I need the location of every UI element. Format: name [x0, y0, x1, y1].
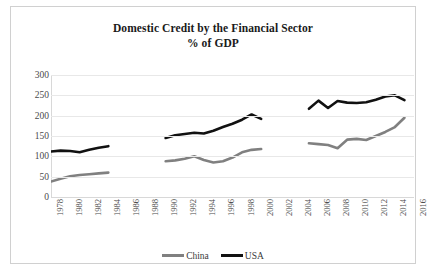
y-axis-tick-label: 300: [15, 70, 49, 80]
y-axis-tick-label: 250: [15, 90, 49, 100]
x-axis-tick-label: 2012: [379, 199, 389, 216]
x-axis-tick-label: 2004: [303, 199, 313, 216]
series-line-usa: [309, 95, 405, 108]
legend-item-usa[interactable]: USA: [221, 250, 264, 261]
gridline: [51, 116, 414, 117]
x-axis-tick-label: 1992: [188, 199, 198, 216]
y-axis-tick-label: 200: [15, 111, 49, 121]
chart-frame: Domestic Credit by the Financial Sector …: [10, 6, 416, 264]
gridline: [51, 197, 414, 198]
x-axis-tick-label: 1984: [112, 199, 122, 216]
gridline: [51, 156, 414, 157]
x-axis-tick-label: 1980: [74, 199, 84, 216]
x-axis-tick-label: 1988: [150, 199, 160, 216]
legend-label: China: [186, 251, 209, 261]
y-axis-labels: 300250200150100500: [11, 7, 49, 273]
legend-item-china[interactable]: China: [162, 250, 209, 261]
x-axis-tick-label: 1996: [226, 199, 236, 216]
y-axis-tick-label: 100: [15, 151, 49, 161]
y-axis-tick-label: 0: [15, 192, 49, 202]
chart-legend: ChinaUSA: [11, 250, 415, 261]
x-axis-tick-label: 2008: [341, 199, 351, 216]
x-axis-tick-label: 1994: [207, 199, 217, 216]
x-axis-tick-label: 2010: [360, 199, 370, 216]
y-axis-tick-label: 50: [15, 172, 49, 182]
x-axis-tick-label: 2006: [322, 199, 332, 216]
chart-subtitle: % of GDP: [11, 36, 415, 51]
gridline: [51, 136, 414, 137]
chart-title-line1: Domestic Credit by the Financial Sector: [113, 22, 313, 34]
series-line-china: [309, 118, 405, 149]
y-axis-tick-label: 150: [15, 131, 49, 141]
plot-area: [51, 75, 414, 197]
x-axis-tick-label: 2002: [284, 199, 294, 216]
x-axis-tick-label: 1978: [55, 199, 65, 216]
series-line-usa: [166, 114, 262, 138]
x-axis-tick-label: 1986: [131, 199, 141, 216]
gridline: [51, 95, 414, 96]
gridline: [51, 75, 414, 76]
series-line-usa: [51, 146, 108, 152]
x-axis-tick-label: 2014: [398, 199, 408, 216]
gridline: [51, 177, 414, 178]
legend-label: USA: [245, 251, 264, 261]
chart-title: Domestic Credit by the Financial Sector …: [11, 21, 415, 51]
x-axis-tick-label: 2016: [418, 199, 427, 216]
x-axis-labels: 1978198019821984198619881990199219941996…: [51, 199, 414, 247]
x-axis-tick-label: 2000: [265, 199, 275, 216]
legend-swatch-icon: [221, 254, 243, 257]
x-axis-tick-label: 1982: [93, 199, 103, 216]
x-axis-tick-label: 1990: [169, 199, 179, 216]
legend-swatch-icon: [162, 254, 184, 257]
x-axis-tick-label: 1998: [246, 199, 256, 216]
